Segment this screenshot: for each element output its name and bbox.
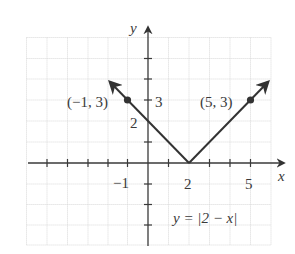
y-tick-label-3: 3 — [155, 94, 163, 110]
x-axis-label: x — [277, 168, 285, 184]
point-left-label: (−1, 3) — [67, 94, 108, 111]
y-axis-label: y — [128, 20, 137, 36]
point-5-3 — [247, 96, 254, 103]
x-tick-label-5: 5 — [245, 176, 253, 192]
x-tick-label-2: 2 — [184, 176, 192, 192]
absolute-value-graph: y x (−1, 3) (5, 3) 3 2 −1 2 5 y = |2 − x… — [0, 0, 295, 254]
axes — [28, 27, 284, 246]
point-right-label: (5, 3) — [200, 94, 233, 111]
y-tick-label-2: 2 — [130, 115, 138, 131]
equation-label: y = |2 − x| — [171, 210, 237, 226]
left-ray — [110, 82, 189, 163]
point-neg1-3 — [124, 96, 131, 103]
x-tick-label-neg1: −1 — [113, 175, 129, 191]
